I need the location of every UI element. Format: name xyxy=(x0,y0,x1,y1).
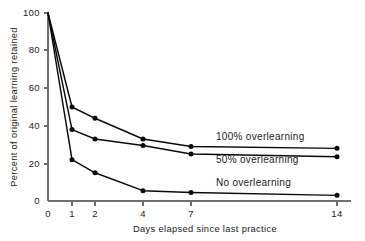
retention-chart: 100806040200 0124714 Percent of original… xyxy=(0,0,365,241)
data-point-marker xyxy=(141,136,146,141)
y-axis-title: Percent of original learning retained xyxy=(9,27,19,187)
series-label-3: No overlearning xyxy=(216,177,291,188)
chart-canvas: 100806040200 0124714 Percent of original… xyxy=(0,0,365,241)
data-point-marker xyxy=(70,127,75,132)
data-point-marker xyxy=(93,170,98,175)
data-point-marker xyxy=(335,193,340,198)
x-tick-label: 2 xyxy=(92,208,98,219)
x-tick-label: 7 xyxy=(188,208,194,219)
x-tick-label: 14 xyxy=(331,208,342,219)
y-tick-label: 20 xyxy=(29,158,40,169)
y-tick-label: 60 xyxy=(29,82,40,93)
data-point-marker xyxy=(70,157,75,162)
chart-background xyxy=(0,0,365,241)
x-tick-label: 1 xyxy=(69,208,75,219)
x-tick-label: 4 xyxy=(140,208,146,219)
y-tick-label: 100 xyxy=(23,7,40,18)
y-tick-label: 80 xyxy=(29,44,40,55)
data-point-marker xyxy=(93,116,98,121)
y-tick-label: 40 xyxy=(29,120,40,131)
y-tick-label: 0 xyxy=(34,195,40,206)
x-axis-title: Days elapsed since last practice xyxy=(133,224,277,234)
data-point-marker xyxy=(141,188,146,193)
data-point-marker xyxy=(93,136,98,141)
data-point-marker xyxy=(335,154,340,159)
data-point-marker xyxy=(335,146,340,151)
data-point-marker xyxy=(189,190,194,195)
data-point-marker xyxy=(189,144,194,149)
data-point-marker xyxy=(70,105,75,110)
series-label-2: 50% overlearning xyxy=(216,154,299,165)
data-point-marker xyxy=(141,143,146,148)
x-tick-label: 0 xyxy=(45,208,51,219)
data-point-marker xyxy=(189,152,194,157)
series-label-1: 100% overlearning xyxy=(216,131,305,142)
